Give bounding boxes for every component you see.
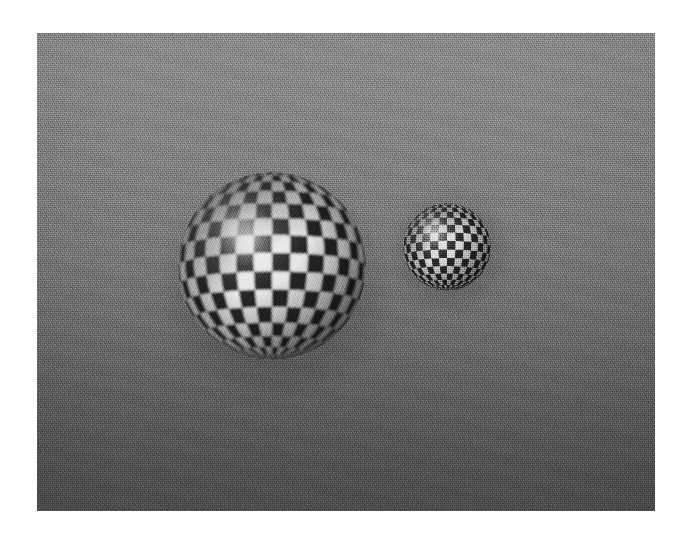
small-sphere <box>403 203 491 291</box>
small-sphere-specular-highlight <box>420 219 450 247</box>
small-sphere-terminator <box>403 203 491 291</box>
scene-canvas <box>0 0 685 538</box>
large-sphere <box>178 172 366 360</box>
large-sphere-specular-highlight <box>216 208 278 266</box>
large-sphere-terminator <box>178 172 366 360</box>
rendered-image-panel <box>37 33 655 511</box>
